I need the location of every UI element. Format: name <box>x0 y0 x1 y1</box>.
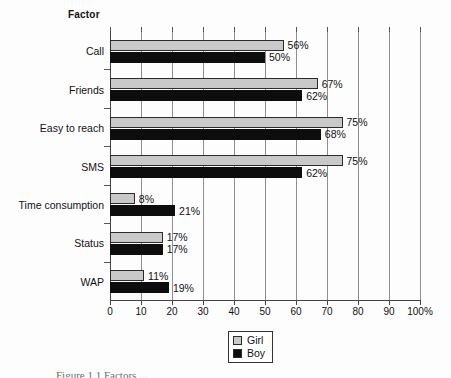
x-axis-tick <box>234 300 235 305</box>
bar-girl-sms <box>110 155 343 166</box>
bar-value-label: 8% <box>139 193 154 205</box>
x-axis-tick <box>327 300 328 305</box>
y-axis-category-label: SMS <box>81 161 104 173</box>
x-axis-top-tick <box>358 27 359 32</box>
y-axis-category-label: WAP <box>80 276 104 288</box>
bar-girl-friends <box>110 78 318 89</box>
bar-value-label: 68% <box>325 128 346 140</box>
bar-value-label: 11% <box>148 270 168 282</box>
x-axis-tick-label: 100% <box>407 306 433 317</box>
x-axis-tick <box>110 300 111 305</box>
bar-girl-time-consumption <box>110 193 135 204</box>
legend-label: Boy <box>247 348 265 359</box>
y-axis-category-label: Call <box>86 45 104 57</box>
legend-label: Girl <box>247 335 263 346</box>
bar-girl-call <box>110 40 284 51</box>
bar-value-label: 50% <box>269 51 290 63</box>
x-axis-top-tick <box>172 27 173 32</box>
bar-girl-easy-to-reach <box>110 117 343 128</box>
bar-boy-easy-to-reach <box>110 129 321 140</box>
bar-value-label: 17% <box>167 243 188 255</box>
x-axis-tick <box>265 300 266 305</box>
x-axis-top-tick <box>110 27 111 32</box>
axis-title-factor: Factor <box>68 9 100 20</box>
x-axis-tick <box>172 300 173 305</box>
bar-value-label: 21% <box>179 205 200 217</box>
x-axis-tick <box>358 300 359 305</box>
bar-boy-sms <box>110 167 302 178</box>
bar-value-label: 75% <box>347 116 368 128</box>
x-axis-tick-label: 40 <box>228 306 239 317</box>
x-axis-tick <box>296 300 297 305</box>
bar-boy-time-consumption <box>110 205 175 216</box>
x-axis-tick-label: 0 <box>107 306 113 317</box>
y-axis-tick <box>104 108 110 109</box>
x-axis-tick <box>420 300 421 305</box>
legend-swatch-girl <box>233 336 242 345</box>
gridline <box>420 31 421 300</box>
x-axis-tick <box>203 300 204 305</box>
x-axis-tick-label: 50 <box>259 306 270 317</box>
x-axis-top-tick <box>389 27 390 32</box>
y-axis-tick <box>104 262 110 263</box>
x-axis-top-tick <box>141 27 142 32</box>
x-axis-top-tick <box>296 27 297 32</box>
y-axis-tick <box>104 185 110 186</box>
x-axis-tick-label: 90 <box>383 306 394 317</box>
x-axis-top-tick <box>327 27 328 32</box>
bar-value-label: 17% <box>167 231 188 243</box>
x-axis-tick-label: 80 <box>352 306 363 317</box>
bar-boy-friends <box>110 90 302 101</box>
x-axis-top-tick <box>234 27 235 32</box>
bar-boy-status <box>110 244 163 255</box>
legend-item[interactable]: Girl <box>233 335 265 346</box>
y-axis-category-label: Status <box>74 237 104 249</box>
bar-boy-call <box>110 52 265 63</box>
bar-value-label: 56% <box>288 39 309 51</box>
y-axis-tick <box>104 146 110 147</box>
gridline <box>389 31 390 300</box>
bar-girl-status <box>110 232 163 243</box>
x-axis-top-tick <box>203 27 204 32</box>
x-axis-tick-label: 60 <box>290 306 301 317</box>
plot-area: 56%50%67%62%75%68%75%62%8%21%17%17%11%19… <box>110 31 420 300</box>
figure-container: Factor 56%50%67%62%75%68%75%62%8%21%17%1… <box>0 0 451 378</box>
x-axis-top-tick <box>420 27 421 32</box>
x-axis-tick <box>141 300 142 305</box>
legend-swatch-boy <box>233 349 242 358</box>
legend-item[interactable]: Boy <box>233 348 265 359</box>
x-axis-tick-label: 30 <box>197 306 208 317</box>
bar-boy-wap <box>110 282 169 293</box>
bar-value-label: 19% <box>173 282 194 294</box>
x-axis-tick-label: 70 <box>321 306 332 317</box>
x-axis-tick-label: 10 <box>135 306 146 317</box>
x-axis-top-tick <box>265 27 266 32</box>
legend: GirlBoy <box>228 331 273 363</box>
y-axis-category-label: Friends <box>69 84 104 96</box>
bar-value-label: 67% <box>322 78 343 90</box>
x-axis-tick-label: 20 <box>166 306 177 317</box>
figure-caption: Figure 1.1 Factors ... <box>56 369 147 378</box>
x-axis-tick <box>389 300 390 305</box>
y-axis-category-label: Time consumption <box>19 199 104 211</box>
bar-value-label: 75% <box>347 155 368 167</box>
y-axis-tick <box>104 223 110 224</box>
y-axis-tick <box>104 69 110 70</box>
bar-girl-wap <box>110 270 144 281</box>
y-axis-category-label: Easy to reach <box>40 122 104 134</box>
bar-value-label: 62% <box>306 90 327 102</box>
bar-value-label: 62% <box>306 167 327 179</box>
